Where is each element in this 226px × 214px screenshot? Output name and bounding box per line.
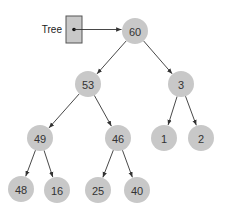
node-value: 3 xyxy=(178,79,184,91)
tree-node-60: 60 xyxy=(122,18,148,44)
node-value: 49 xyxy=(34,133,46,145)
edge-53-to-49 xyxy=(49,94,79,128)
tree-node-46: 46 xyxy=(105,125,131,151)
node-value: 2 xyxy=(198,133,204,145)
node-value: 60 xyxy=(129,26,141,38)
node-value: 25 xyxy=(92,185,104,197)
edge-49-to-16 xyxy=(44,150,53,177)
binary-tree-diagram: Tree 6053349461248162540 xyxy=(0,0,226,214)
tree-node-16: 16 xyxy=(44,177,70,203)
edge-53-to-46 xyxy=(94,95,111,126)
edge-60-to-53 xyxy=(97,41,126,74)
tree-node-49: 49 xyxy=(27,125,53,151)
tree-node-40: 40 xyxy=(124,177,150,203)
tree-node-48: 48 xyxy=(8,176,34,202)
tree-pointer-label: Tree xyxy=(42,24,63,35)
tree-nodes: 6053349461248162540 xyxy=(8,18,214,203)
edge-60-to-3 xyxy=(144,41,173,74)
edge-3-to-1 xyxy=(168,96,177,125)
tree-node-1: 1 xyxy=(151,125,177,151)
tree-node-53: 53 xyxy=(75,71,101,97)
tree-edges xyxy=(26,41,197,178)
tree-pointer: Tree xyxy=(42,16,122,43)
node-value: 40 xyxy=(131,185,143,197)
tree-node-3: 3 xyxy=(168,71,194,97)
edge-46-to-25 xyxy=(103,150,113,177)
tree-node-2: 2 xyxy=(188,125,214,151)
edge-49-to-48 xyxy=(26,150,36,176)
tree-node-25: 25 xyxy=(85,177,111,203)
node-value: 46 xyxy=(112,133,124,145)
edge-46-to-40 xyxy=(122,150,132,177)
node-value: 1 xyxy=(161,133,167,145)
node-value: 16 xyxy=(51,185,63,197)
node-value: 48 xyxy=(15,184,27,196)
edge-3-to-2 xyxy=(186,96,197,125)
node-value: 53 xyxy=(82,79,94,91)
